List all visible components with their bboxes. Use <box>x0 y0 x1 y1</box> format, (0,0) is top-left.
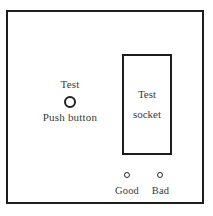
push-button-top-label: Test <box>8 78 132 90</box>
bad-indicator-label: Bad <box>144 185 177 197</box>
test-socket-label: Test socket <box>124 84 170 124</box>
panel-faceplate: Test Push button Test socket Good Bad <box>6 10 204 204</box>
test-panel-diagram: Test Push button Test socket Good Bad <box>0 0 213 216</box>
push-button-caption: Push button <box>8 111 132 123</box>
test-push-button[interactable] <box>64 96 76 108</box>
test-socket-label-line2: socket <box>124 104 170 124</box>
bad-indicator-lamp <box>157 172 163 178</box>
good-indicator-lamp <box>124 172 130 178</box>
test-socket-label-line1: Test <box>124 84 170 104</box>
good-indicator-label: Good <box>108 185 146 197</box>
test-socket[interactable]: Test socket <box>122 54 172 155</box>
